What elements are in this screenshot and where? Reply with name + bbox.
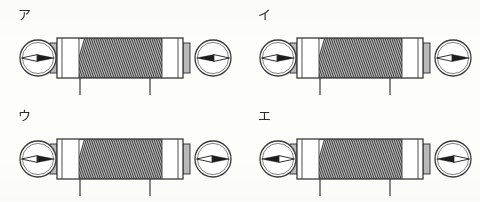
- terminal-block-right: [423, 144, 430, 174]
- compass-right: [195, 141, 231, 177]
- compass-left: [20, 141, 56, 177]
- solenoid: [290, 139, 430, 196]
- compass-left: [260, 141, 296, 177]
- terminal-block-right: [183, 144, 190, 174]
- terminal-block-right: [423, 43, 430, 73]
- compass-left: [20, 40, 56, 76]
- apparatus-drawing: [240, 101, 480, 202]
- apparatus-drawing: [0, 0, 240, 101]
- apparatus-drawing: [0, 101, 240, 202]
- apparatus-drawing: [240, 0, 480, 101]
- panel-e: エ: [240, 101, 480, 202]
- compass-left: [260, 40, 296, 76]
- solenoid: [50, 38, 190, 95]
- solenoid: [290, 38, 430, 95]
- compass-right: [435, 40, 471, 76]
- figure-sheet: ア イ ウ エ: [0, 0, 480, 202]
- solenoid: [50, 139, 190, 196]
- terminal-block-right: [183, 43, 190, 73]
- panel-u: ウ: [0, 101, 240, 202]
- panel-i: イ: [240, 0, 480, 101]
- panel-a: ア: [0, 0, 240, 101]
- compass-right: [195, 40, 231, 76]
- compass-right: [435, 141, 471, 177]
